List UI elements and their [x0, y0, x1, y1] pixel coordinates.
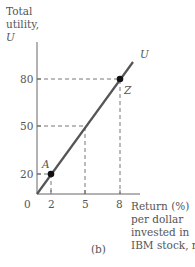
point-z: [117, 76, 124, 83]
x-axis-label-2: per dollar: [131, 213, 183, 226]
point-a-label: A: [42, 158, 50, 171]
y-tick-80: 80: [20, 73, 33, 86]
y-axis-label-2: utility,: [6, 18, 39, 31]
origin-label: 0: [24, 198, 31, 211]
y-tick-50: 50: [20, 120, 33, 133]
point-z-label: Z: [124, 84, 131, 97]
x-axis-label-1: Return (%): [131, 200, 189, 213]
y-axis-label-3: U: [6, 31, 15, 44]
x-tick-8: 8: [116, 198, 123, 211]
y-tick-20: 20: [20, 168, 33, 181]
x-tick-5: 5: [82, 198, 89, 211]
curve-label: U: [140, 48, 149, 61]
y-axis-label-1: Total: [6, 5, 32, 18]
panel-label: (b): [91, 243, 106, 256]
x-tick-2: 2: [48, 198, 55, 211]
point-a: [48, 171, 55, 178]
x-axis-label-4: IBM stock, r₁: [131, 239, 195, 252]
x-axis-label-3: invested in: [131, 226, 189, 239]
